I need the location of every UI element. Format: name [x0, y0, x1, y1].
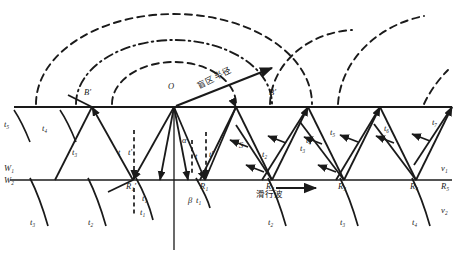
time-label-lower-t3: t₃	[30, 218, 35, 227]
label-angle-beta: β	[188, 196, 192, 205]
label-point-b-prime-left: B′	[84, 88, 91, 97]
time-label-right-t4: t₄	[306, 136, 311, 145]
label-point-r3: R₃	[338, 182, 346, 191]
label-point-s: S	[239, 141, 243, 150]
dashed-wavefront-arcs	[36, 14, 448, 104]
label-angle-i-left: t	[118, 148, 120, 157]
ray-paths-right-zigzag	[200, 107, 452, 180]
time-label-near-r1-left: t₁	[142, 194, 147, 203]
label-point-r1-prime: R₁′	[126, 182, 136, 191]
label-point-o: O	[168, 82, 174, 91]
label-angle-i-right: t′	[128, 148, 132, 157]
time-label-lower-right-t3: t₃	[340, 218, 345, 227]
time-label-lower-t1: t₁	[140, 208, 145, 217]
time-label-right-t3: t₃	[300, 144, 305, 153]
label-point-r5: R₅	[441, 182, 449, 191]
time-label-right-t5: t₅	[330, 128, 335, 137]
time-label-right-t7: t₇	[432, 118, 437, 127]
diagram-canvas	[0, 0, 461, 255]
time-label-near-r1-right: t₁	[196, 196, 201, 205]
label-velocity-v1: v₁	[441, 164, 448, 173]
label-point-b-prime-right: B′	[269, 88, 276, 97]
label-angle-alpha: α	[182, 136, 186, 145]
label-layer-w2: W₂	[4, 176, 14, 185]
label-point-r4: R₄	[410, 182, 418, 191]
time-label-lower-right-t4: t₄	[412, 218, 417, 227]
time-label-lower-right-t2: t₂	[268, 218, 273, 227]
label-layer-w1: W₁	[4, 164, 14, 173]
label-velocity-v2: v₂	[441, 206, 448, 215]
diagram-root: O B′ B′ R₁′ R₁ R₂ R₃ R₄ R₅ 盲区半径 滑行波 α β …	[0, 0, 461, 255]
label-angle-t: t	[195, 152, 197, 161]
time-label-lower-t2: t₂	[88, 218, 93, 227]
label-angle-t-prime: t′	[209, 150, 213, 159]
time-label-surface-t3: t₃	[72, 148, 77, 157]
time-label-surface-t4: t₄	[42, 124, 47, 133]
ray-paths-left	[55, 95, 236, 192]
label-glide-wave: 滑行波	[256, 190, 284, 199]
time-label-surface-t5: t₅	[4, 120, 9, 129]
time-label-right-t6: t₆	[384, 124, 389, 133]
label-point-r1: R₁	[200, 182, 208, 191]
time-label-right-t2: t₂	[262, 150, 267, 159]
